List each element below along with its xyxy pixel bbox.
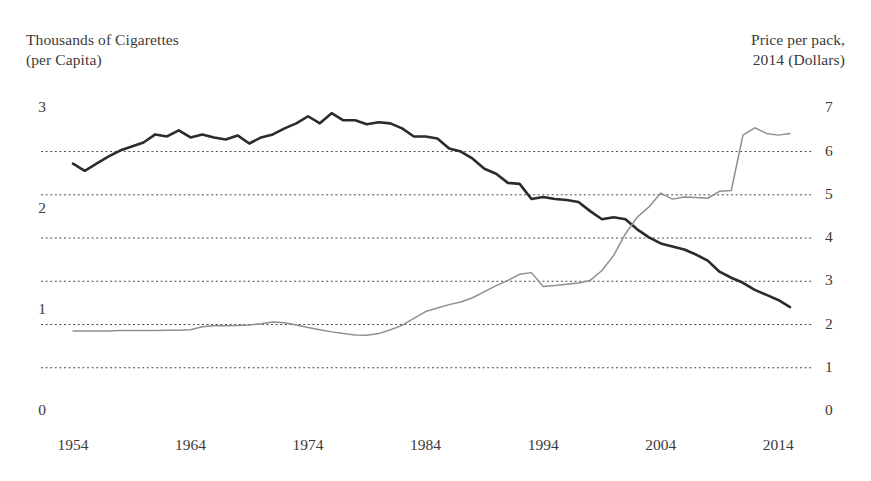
y-axis-right-tick-label: 2 [825, 316, 871, 332]
gridlines [41, 152, 812, 368]
x-axis-tick-label: 1984 [396, 437, 456, 453]
chart-plot-area [0, 0, 871, 481]
y-axis-right-tick-label: 5 [825, 186, 871, 202]
y-axis-right-tick-label: 4 [825, 229, 871, 245]
y-axis-left-tick-label: 1 [0, 301, 46, 317]
y-axis-right-tick-label: 0 [825, 402, 871, 418]
series-lines [73, 113, 790, 335]
x-axis-tick-label: 1974 [278, 437, 338, 453]
y-axis-right-tick-label: 3 [825, 272, 871, 288]
y-axis-left-tick-label: 2 [0, 200, 46, 216]
x-axis-tick-label: 1954 [43, 437, 103, 453]
x-axis-tick-label: 2004 [631, 437, 691, 453]
y-axis-left-tick-label: 3 [0, 99, 46, 115]
y-axis-right-tick-label: 6 [825, 143, 871, 159]
x-axis-tick-label: 1994 [513, 437, 573, 453]
cigarettes-line [73, 113, 790, 307]
x-axis-tick-label: 2014 [748, 437, 808, 453]
price-line [73, 128, 790, 336]
y-axis-right-tick-label: 7 [825, 99, 871, 115]
y-axis-left-tick-label: 0 [0, 402, 46, 418]
y-axis-right-tick-label: 1 [825, 359, 871, 375]
x-axis-tick-label: 1964 [161, 437, 221, 453]
chart-figure: Thousands of Cigarettes (per Capita) Pri… [0, 0, 871, 481]
